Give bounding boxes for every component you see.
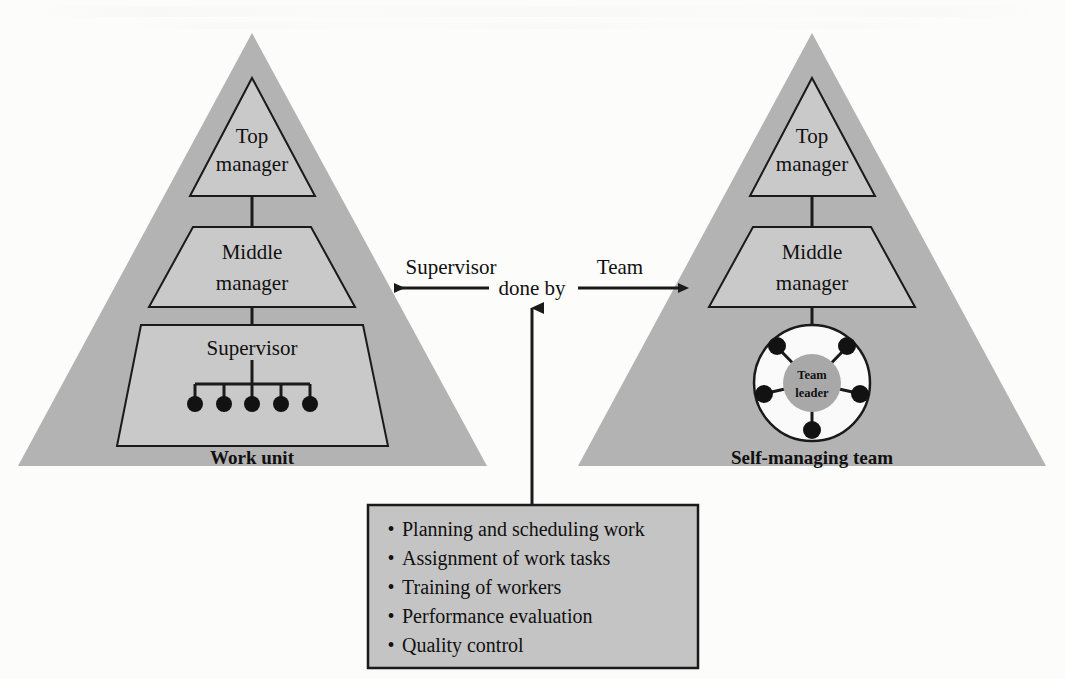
team-member-node: [768, 337, 786, 355]
left-middle-manager-label-line2: manager: [216, 271, 288, 295]
team-member-node: [851, 385, 869, 403]
tasks-item-1: Assignment of work tasks: [402, 547, 611, 570]
left-worker-node: [302, 396, 318, 412]
organization-comparison-diagram: Top manager Middle manager Supervisor: [0, 0, 1065, 679]
team-inner-circle: [783, 354, 841, 412]
figure-page: Top manager Middle manager Supervisor: [0, 0, 1065, 679]
tasks-item-3: Performance evaluation: [402, 605, 592, 627]
supervisor-arrow-label: Supervisor: [406, 255, 497, 279]
tasks-item-2: Training of workers: [402, 576, 561, 599]
right-top-manager-label-line1: Top: [796, 124, 828, 148]
right-pyramid-caption: Self-managing team: [731, 447, 893, 468]
team-member-node: [838, 337, 856, 355]
team-arrow-label: Team: [597, 255, 643, 279]
team-leader-label-line1: Team: [797, 368, 827, 382]
right-middle-manager-label-line1: Middle: [782, 240, 843, 264]
left-pyramid-caption: Work unit: [210, 447, 295, 468]
tasks-panel-group[interactable]: • Planning and scheduling work • Assignm…: [368, 505, 698, 668]
tasks-bullet-glyph: •: [387, 634, 394, 656]
tasks-bullet-glyph: •: [387, 605, 394, 627]
right-pyramid-group: Top manager Middle manager Team leader: [578, 33, 1046, 468]
tasks-item-0: Planning and scheduling work: [402, 518, 645, 541]
tasks-bullet-glyph: •: [387, 547, 394, 569]
left-worker-node: [244, 396, 260, 412]
right-top-manager-label-line2: manager: [776, 152, 848, 176]
left-top-manager-label-line1: Top: [236, 124, 268, 148]
left-top-manager-label-line2: manager: [216, 152, 288, 176]
left-middle-manager-label-line1: Middle: [222, 240, 283, 264]
team-member-node: [755, 385, 773, 403]
right-middle-manager-label-line2: manager: [776, 271, 848, 295]
left-worker-node: [273, 396, 289, 412]
left-supervisor-label: Supervisor: [207, 336, 298, 360]
tasks-item-4: Quality control: [402, 634, 524, 657]
team-leader-label-line2: leader: [795, 386, 829, 400]
team-member-node: [803, 421, 821, 439]
left-pyramid-group: Top manager Middle manager Supervisor: [18, 33, 487, 468]
left-worker-node: [216, 396, 232, 412]
tasks-bullet-glyph: •: [387, 576, 394, 598]
done-by-label: done by: [498, 276, 566, 300]
self-managing-team-circle[interactable]: Team leader: [754, 325, 870, 441]
tasks-bullet-glyph: •: [387, 518, 394, 540]
left-worker-node: [187, 396, 203, 412]
